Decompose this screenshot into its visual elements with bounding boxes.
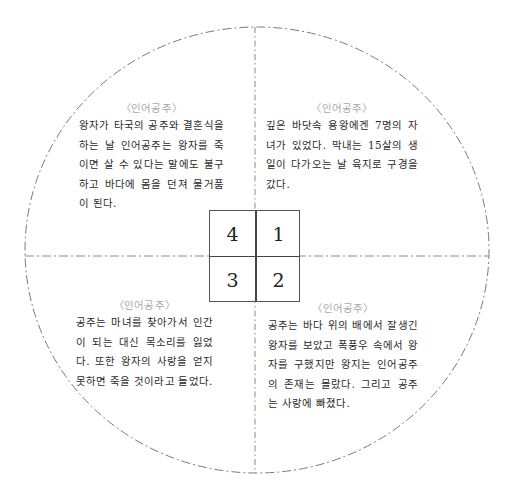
quadrant-2-text: 〈인어공주〉 공주는 바다 위의 배에서 잘생긴 왕자를 보았고 폭풍우 속에서… bbox=[268, 300, 418, 414]
box-cell-top-right: 1 bbox=[256, 211, 301, 256]
quadrant-4-text: 〈인어공주〉 왕자가 타국의 공주와 결혼식을 하는 날 인어공주는 왕자를 죽… bbox=[79, 100, 224, 214]
quadrant-3-heading: 〈인어공주〉 bbox=[76, 297, 213, 313]
quadrant-1-body: 깊은 바닷속 용왕에겐 7명의 자녀가 있었다. 막내는 15살의 생일이 다가… bbox=[266, 119, 418, 190]
box-cell-top-left: 4 bbox=[210, 211, 255, 256]
quadrant-1-text: 〈인어공주〉 깊은 바닷속 용왕에겐 7명의 자녀가 있었다. 막내는 15살의… bbox=[266, 100, 418, 194]
quadrant-4-heading: 〈인어공주〉 bbox=[79, 100, 224, 116]
quadrant-2-body: 공주는 바다 위의 배에서 잘생긴 왕자를 보았고 폭풍우 속에서 왕자를 구했… bbox=[268, 319, 418, 409]
quadrant-2-heading: 〈인어공주〉 bbox=[268, 300, 418, 316]
quadrant-1-heading: 〈인어공주〉 bbox=[266, 100, 418, 116]
quadrant-4-body: 왕자가 타국의 공주와 결혼식을 하는 날 인어공주는 왕자를 죽이면 살 수 … bbox=[79, 119, 224, 209]
box-cell-bottom-right: 2 bbox=[256, 257, 301, 302]
quadrant-3-body: 공주는 마녀를 찾아가서 인간이 되는 대신 목소리를 잃었다. 또한 왕자의 … bbox=[76, 316, 213, 387]
center-sequence-box: 4 1 3 2 bbox=[209, 210, 300, 302]
box-cell-bottom-left: 3 bbox=[210, 257, 255, 302]
quadrant-3-text: 〈인어공주〉 공주는 마녀를 찾아가서 인간이 되는 대신 목소리를 잃었다. … bbox=[76, 297, 213, 391]
